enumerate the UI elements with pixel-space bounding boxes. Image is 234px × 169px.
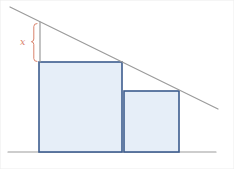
x-label: x <box>20 36 26 47</box>
large-square <box>39 62 122 152</box>
diagram-svg: x <box>0 0 234 169</box>
small-square <box>124 91 179 152</box>
geometry-diagram: x <box>0 0 234 169</box>
